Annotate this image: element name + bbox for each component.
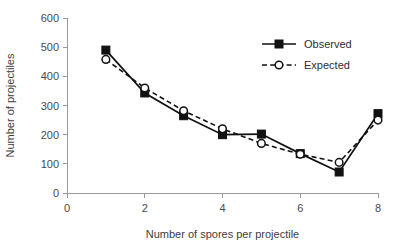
y-axis-tick-label: 0 [53,187,59,199]
data-point-marker [257,130,265,138]
data-point-marker [335,159,343,167]
data-point-marker [141,84,149,92]
y-axis-tick-label: 200 [41,129,59,141]
series-line-expected [106,59,378,162]
chart-plot: 010020030040050060002468Number of spores… [0,0,404,250]
data-point-marker [335,168,343,176]
x-axis: 02468 [64,193,381,214]
x-axis-tick-label: 6 [297,202,303,214]
y-axis: 0100200300400500600 [41,12,67,199]
y-axis-title: Number of projectiles [4,53,16,157]
data-point-marker [374,116,382,124]
legend-label: Expected [304,59,350,71]
x-axis-tick-label: 8 [375,202,381,214]
y-axis-tick-label: 600 [41,12,59,24]
x-axis-tick-label: 4 [219,202,225,214]
legend-item-observed[interactable]: Observed [262,38,352,50]
legend-label: Observed [304,38,352,50]
y-axis-tick-label: 400 [41,70,59,82]
x-axis-tick-label: 0 [64,202,70,214]
data-point-marker [180,107,188,115]
y-axis-tick-label: 500 [41,41,59,53]
data-point-marker [102,46,110,54]
x-axis-title: Number of spores per projectile [146,228,299,240]
chart-legend: ObservedExpected [262,38,352,71]
y-axis-tick-label: 300 [41,100,59,112]
legend-marker [275,61,283,69]
x-axis-tick-label: 2 [142,202,148,214]
legend-item-expected[interactable]: Expected [262,59,350,71]
data-point-marker [258,140,266,148]
data-point-marker [219,125,227,133]
chart-container: 010020030040050060002468Number of spores… [0,0,404,250]
data-point-marker [296,150,304,158]
y-axis-tick-label: 100 [41,158,59,170]
legend-marker [275,40,283,48]
data-point-marker [102,56,110,64]
series-markers-expected [102,56,382,167]
